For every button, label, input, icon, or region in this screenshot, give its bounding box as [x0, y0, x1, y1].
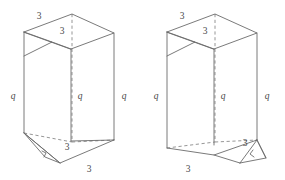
- right-prism-bottom-angle-marker: [250, 150, 254, 157]
- right-prism-bottom-front-edge-label: 3: [186, 164, 191, 174]
- left-prism-bottom-inner-edge-label: 3: [65, 142, 70, 152]
- figure-area: 3 3 q q q 3 3 3 3: [0, 0, 285, 180]
- right-prism: 3 3 q q q 3 3: [154, 11, 270, 174]
- left-prism-top-left-edge-label: 3: [37, 11, 42, 21]
- left-prism: 3 3 q q q 3 3: [11, 11, 127, 174]
- right-prism-top-left-edge-label: 3: [180, 11, 185, 21]
- left-prism-middle-vertical-label: q: [78, 91, 83, 101]
- right-prism-right-vertical-label: q: [265, 91, 270, 101]
- right-prism-left-face: [167, 32, 214, 148]
- left-prism-top-inner-edge-label: 3: [60, 26, 65, 36]
- left-prism-right-vertical-label: q: [122, 91, 127, 101]
- right-prism-right-face: [214, 33, 257, 145]
- left-prism-left-face: [24, 32, 71, 141]
- right-prism-bottom-inner-edge-label: 3: [243, 138, 248, 148]
- right-prism-left-vertical-label: q: [154, 91, 159, 101]
- left-prism-bottom-front-edge-label: 3: [87, 164, 92, 174]
- right-prism-middle-vertical-label: q: [221, 91, 226, 101]
- right-prism-bottom-flap-edge: [214, 155, 240, 163]
- left-prism-left-vertical-label: q: [11, 91, 16, 101]
- left-prism-right-face: [71, 33, 114, 141]
- right-prism-top-inner-edge-label: 3: [203, 26, 208, 36]
- right-prism-bottom-flap-outer-edge: [257, 140, 266, 158]
- prism-pair-diagram: 3 3 q q q 3 3 3 3: [0, 0, 285, 180]
